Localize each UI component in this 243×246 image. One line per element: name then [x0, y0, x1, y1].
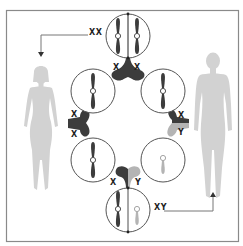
male-figure	[194, 53, 232, 199]
cell-female-xx	[106, 13, 150, 60]
x-chromosome	[90, 142, 95, 178]
label-right-junction-top: X	[178, 112, 185, 120]
label-bottom-junction-left: X	[110, 179, 117, 187]
x-chromosome	[90, 73, 95, 109]
cell-male-xy	[106, 187, 150, 234]
x-chromosome	[134, 18, 139, 54]
x-chromosome	[115, 18, 120, 54]
label-top-junction-left: X	[113, 64, 120, 72]
sex-determination-diagram: XX XY X X X X X Y X Y	[0, 0, 243, 246]
label-bottom-junction-right: Y	[135, 179, 141, 187]
label-right-junction-bottom: Y	[178, 129, 184, 137]
x-chromosome	[160, 73, 165, 109]
x-chromosome	[115, 191, 120, 227]
label-left-junction-top: X	[71, 111, 78, 119]
label-male-karyotype: XY	[154, 204, 167, 212]
label-female-karyotype: XX	[89, 29, 102, 37]
arrow-to-female	[38, 35, 88, 57]
cell-egg-x-upper	[71, 69, 115, 113]
label-left-junction-bottom: X	[71, 131, 78, 139]
cell-sperm-x	[141, 69, 185, 113]
female-figure	[24, 66, 58, 190]
cell-sperm-y	[141, 138, 185, 182]
label-top-junction-right: X	[134, 64, 141, 72]
cell-egg-x-lower	[71, 138, 115, 182]
diagram-canvas	[0, 0, 243, 246]
